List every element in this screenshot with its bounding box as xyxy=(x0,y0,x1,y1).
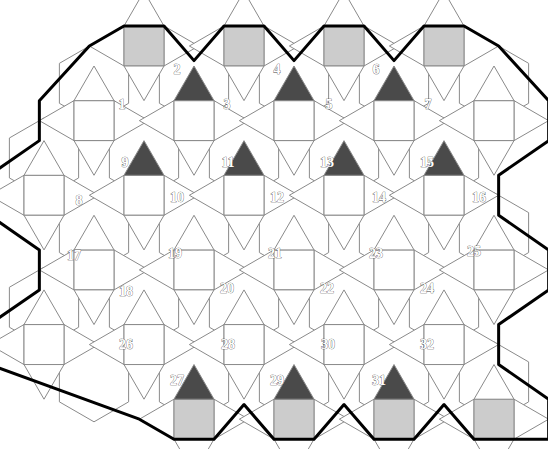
triangle-tile xyxy=(274,141,314,176)
square-tile-gray xyxy=(224,26,264,66)
triangle-number: 7 xyxy=(425,97,432,112)
square-tile-gray xyxy=(474,399,514,439)
triangle-tile xyxy=(224,0,264,26)
triangle-number: 30 xyxy=(321,337,335,352)
triangle-tile xyxy=(124,0,164,26)
triangle-number: 5 xyxy=(326,97,333,112)
triangle-tile xyxy=(224,66,264,101)
triangle-tile xyxy=(74,141,114,176)
triangle-tile xyxy=(374,290,414,325)
triangle-number: 32 xyxy=(420,337,434,352)
triangle-tile xyxy=(74,290,114,325)
triangle-tile xyxy=(174,141,214,176)
triangle-tile xyxy=(274,290,314,325)
triangle-number: 14 xyxy=(372,190,386,205)
triangle-number: 22 xyxy=(320,281,334,296)
triangle-number: 28 xyxy=(221,337,235,352)
square-tile xyxy=(174,101,214,141)
triangle-tile xyxy=(124,215,164,250)
triangle-number: 4 xyxy=(274,62,281,77)
triangle-number: 24 xyxy=(420,281,434,296)
square-tile xyxy=(324,175,364,215)
square-tile-gray xyxy=(174,399,214,439)
triangle-tile xyxy=(0,175,24,215)
triangle-tile xyxy=(124,66,164,101)
triangle-number: 26 xyxy=(119,337,133,352)
triangle-number: 9 xyxy=(122,155,129,170)
triangle-tile xyxy=(224,215,264,250)
square-tile xyxy=(24,175,64,215)
triangle-number: 13 xyxy=(320,155,334,170)
triangle-tile xyxy=(514,101,548,141)
triangle-number: 31 xyxy=(372,373,386,388)
triangle-tile xyxy=(424,215,464,250)
square-tile xyxy=(74,101,114,141)
triangle-number: 21 xyxy=(268,246,282,261)
triangle-number: 15 xyxy=(420,155,434,170)
triangle-tile xyxy=(514,250,548,290)
square-tile xyxy=(124,175,164,215)
triangle-number: 16 xyxy=(472,190,486,205)
triangle-number: 11 xyxy=(221,155,234,170)
triangle-tile xyxy=(374,141,414,176)
tiling-figure: 1234567891011121314151617181920212223242… xyxy=(0,0,548,449)
triangle-tile xyxy=(324,365,364,400)
triangle-tile xyxy=(224,365,264,400)
triangle-tile xyxy=(24,365,64,400)
triangle-number: 10 xyxy=(170,190,184,205)
square-tile-gray xyxy=(274,399,314,439)
square-tile xyxy=(224,175,264,215)
triangle-number: 29 xyxy=(270,373,284,388)
square-tile xyxy=(374,101,414,141)
triangle-number: 3 xyxy=(224,97,231,112)
square-tile xyxy=(424,175,464,215)
triangle-tile xyxy=(139,399,174,439)
triangle-number: 20 xyxy=(220,281,234,296)
square-tile-gray xyxy=(124,26,164,66)
triangle-tile xyxy=(174,290,214,325)
triangle-number: 6 xyxy=(373,62,380,77)
tiling-svg: 1234567891011121314151617181920212223242… xyxy=(0,0,548,449)
square-tile xyxy=(474,101,514,141)
triangle-tile xyxy=(514,399,548,439)
triangle-number: 23 xyxy=(369,246,383,261)
triangle-tile xyxy=(0,325,24,365)
triangle-tile xyxy=(424,0,464,26)
triangle-number: 2 xyxy=(174,62,181,77)
triangle-number: 1 xyxy=(119,97,126,112)
triangle-tile xyxy=(324,66,364,101)
triangle-number: 19 xyxy=(168,246,182,261)
triangle-number: 27 xyxy=(170,373,184,388)
triangle-number: 25 xyxy=(467,244,481,259)
triangle-tile xyxy=(124,365,164,400)
square-tile-gray xyxy=(374,399,414,439)
square-tile xyxy=(274,101,314,141)
triangle-number: 8 xyxy=(76,193,83,208)
triangle-tile xyxy=(424,365,464,400)
triangle-tile xyxy=(324,0,364,26)
square-tile-gray xyxy=(424,26,464,66)
triangle-number: 17 xyxy=(67,248,81,263)
triangle-tile xyxy=(424,66,464,101)
triangle-number: 18 xyxy=(119,284,133,299)
triangle-tile xyxy=(324,215,364,250)
square-tile-gray xyxy=(324,26,364,66)
triangle-number: 12 xyxy=(270,190,284,205)
square-tile xyxy=(24,325,64,365)
